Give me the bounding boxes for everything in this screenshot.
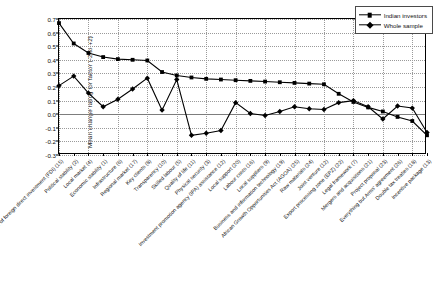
legend-marker-square-icon — [359, 11, 381, 19]
y-tick-label: 0.5 — [47, 43, 56, 50]
data-point — [174, 77, 179, 82]
data-point — [72, 42, 76, 46]
data-point — [277, 109, 282, 114]
data-point — [248, 79, 252, 83]
x-tick-mark — [427, 153, 428, 156]
data-point — [307, 106, 312, 111]
data-point — [263, 80, 267, 84]
series-indian-investors — [57, 21, 429, 137]
series-line — [59, 76, 427, 135]
y-tick-label: -0.3 — [45, 152, 56, 159]
data-point — [190, 76, 194, 80]
data-point — [321, 107, 326, 112]
data-point — [381, 110, 385, 114]
data-point — [219, 78, 223, 82]
data-point — [101, 55, 105, 59]
chart-figure: Mean change rating for factor (-2 to +2)… — [0, 0, 437, 302]
data-point — [57, 21, 61, 25]
data-point — [56, 83, 61, 88]
data-point — [87, 51, 91, 55]
y-tick-label: 0.3 — [47, 70, 56, 77]
y-tick-label: 0.6 — [47, 29, 56, 36]
data-point — [293, 81, 297, 85]
data-point — [160, 70, 164, 74]
data-point — [410, 119, 414, 123]
series-line — [59, 23, 427, 135]
legend-label: Whole sample — [381, 22, 423, 29]
plot-area: Mean change rating for factor (-2 to +2)… — [58, 18, 426, 154]
data-point — [204, 77, 208, 81]
y-tick-label: 0.7 — [47, 16, 56, 23]
data-point — [322, 82, 326, 86]
data-point — [262, 113, 267, 118]
y-tick-label: -0.1 — [45, 124, 56, 131]
data-point — [175, 74, 179, 78]
data-point — [204, 131, 209, 136]
legend: Indian investors Whole sample — [355, 6, 433, 34]
data-point — [410, 105, 415, 110]
data-point — [131, 58, 135, 62]
data-point — [159, 107, 164, 112]
data-point — [336, 100, 341, 105]
data-point — [292, 104, 297, 109]
data-point — [396, 115, 400, 119]
data-point — [218, 128, 223, 133]
series-layer — [59, 19, 427, 155]
data-point — [307, 82, 311, 86]
data-point — [234, 78, 238, 82]
gridline-horizontal — [59, 155, 425, 156]
y-tick-label: 0.2 — [47, 84, 56, 91]
legend-item-indian-investors: Indian investors — [359, 10, 427, 20]
data-point — [337, 92, 341, 96]
y-tick-label: -0.2 — [45, 138, 56, 145]
legend-label: Indian investors — [381, 12, 427, 19]
data-point — [145, 59, 149, 63]
data-point — [116, 57, 120, 61]
data-point — [278, 80, 282, 84]
legend-item-whole-sample: Whole sample — [359, 20, 427, 30]
series-whole-sample — [56, 73, 429, 138]
y-tick-label: 0.0 — [47, 111, 56, 118]
y-tick-label: 0.1 — [47, 97, 56, 104]
legend-marker-diamond-icon — [359, 21, 381, 29]
data-point — [189, 133, 194, 138]
y-tick-label: 0.4 — [47, 56, 56, 63]
